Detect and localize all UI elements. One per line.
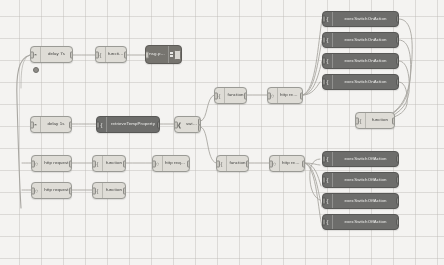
node-output-port[interactable] xyxy=(396,37,400,44)
node-input-port[interactable] xyxy=(96,121,100,128)
node-input-port[interactable] xyxy=(31,160,35,167)
node-label: execSwitchOffAction xyxy=(333,199,398,203)
node-label: http request xyxy=(280,161,304,165)
node-output-port[interactable] xyxy=(396,177,400,184)
node-label: execSwitchOffAction xyxy=(333,178,398,182)
node-function-5[interactable]: { function xyxy=(92,182,126,199)
node-label: execSwitchOffAction xyxy=(333,157,398,161)
node-output-port[interactable] xyxy=(396,219,400,226)
node-label: delay 1s xyxy=(41,122,71,126)
node-input-port[interactable] xyxy=(152,160,156,167)
node-input-port[interactable] xyxy=(95,51,99,58)
node-input-port[interactable] xyxy=(355,117,359,124)
node-label: function xyxy=(366,118,394,122)
node-http-request-2[interactable]: ○ http request xyxy=(31,155,72,172)
node-output-port[interactable] xyxy=(396,16,400,23)
node-input-port[interactable] xyxy=(92,187,96,194)
node-input-port[interactable] xyxy=(92,160,96,167)
flow-canvas[interactable]: ◓ delay 7s { function msg.payload ◓ dela… xyxy=(0,0,444,265)
node-exec-switch-on-action-3[interactable]: { execSwitchOnAction xyxy=(322,53,399,69)
node-input-port[interactable] xyxy=(31,187,35,194)
node-exec-switch-on-action-2[interactable]: { execSwitchOnAction xyxy=(322,32,399,48)
node-output-port[interactable] xyxy=(244,92,248,99)
node-input-port[interactable] xyxy=(174,121,178,128)
node-http-request-3[interactable]: ○ http request xyxy=(152,155,190,172)
node-http-request-4[interactable]: ○ http request xyxy=(31,182,72,199)
node-switch[interactable]: ❰ switch xyxy=(174,116,201,133)
node-function-2[interactable]: { function xyxy=(214,87,247,104)
node-exec-switch-off-action-4[interactable]: { execSwitchOffAction xyxy=(322,214,399,230)
node-label: http request xyxy=(278,93,302,97)
node-output-port[interactable] xyxy=(123,160,127,167)
node-label: execSwitchOnAction xyxy=(333,38,398,42)
node-output-port[interactable] xyxy=(69,121,73,128)
node-input-port[interactable] xyxy=(322,37,326,44)
node-exec-switch-off-action-1[interactable]: { execSwitchOffAction xyxy=(322,151,399,167)
node-input-port[interactable] xyxy=(30,121,34,128)
node-input-port[interactable] xyxy=(145,51,149,58)
node-label: msg.payload xyxy=(146,52,168,56)
node-label: http request xyxy=(42,161,71,165)
node-output-port[interactable] xyxy=(300,92,304,99)
node-input-port[interactable] xyxy=(267,92,271,99)
node-output-port[interactable] xyxy=(70,51,74,58)
node-output-port[interactable] xyxy=(69,187,73,194)
node-debug-msg-payload[interactable]: msg.payload xyxy=(145,45,182,64)
node-output-port[interactable] xyxy=(396,156,400,163)
node-status-dot xyxy=(33,67,39,73)
node-label: execSwitchOffAction xyxy=(333,220,398,224)
node-output-port[interactable] xyxy=(124,51,128,58)
node-exec-switch-on-action-1[interactable]: { execSwitchOnAction xyxy=(322,11,399,27)
node-exec-switch-off-action-2[interactable]: { execSwitchOffAction xyxy=(322,172,399,188)
node-output-port[interactable] xyxy=(187,160,191,167)
node-label: delay 7s xyxy=(41,52,72,56)
node-input-port[interactable] xyxy=(322,177,326,184)
node-input-port[interactable] xyxy=(322,198,326,205)
node-function-3[interactable]: { function xyxy=(216,155,249,172)
debug-icon xyxy=(168,46,174,63)
node-label: execSwitchOnAction xyxy=(333,17,398,21)
node-label: http request xyxy=(42,188,71,192)
node-input-port[interactable] xyxy=(214,92,218,99)
node-exec-switch-on-action-4[interactable]: { execSwitchOnAction xyxy=(322,74,399,90)
node-output-port[interactable] xyxy=(157,121,161,128)
node-http-request-1[interactable]: ○ http request xyxy=(267,87,303,104)
node-input-port[interactable] xyxy=(269,160,273,167)
node-exec-switch-off-action-3[interactable]: { execSwitchOffAction xyxy=(322,193,399,209)
node-input-port[interactable] xyxy=(216,160,220,167)
node-label: retrieveTempProperty xyxy=(107,122,159,126)
node-http-request-5[interactable]: ○ http request xyxy=(269,155,305,172)
node-label: execSwitchOnAction xyxy=(333,59,398,63)
node-input-port[interactable] xyxy=(322,79,326,86)
node-function-1[interactable]: { function xyxy=(95,46,127,63)
node-output-port[interactable] xyxy=(396,79,400,86)
node-delay-1s[interactable]: ◓ delay 1s xyxy=(30,116,72,133)
node-delay-7s[interactable]: ◓ delay 7s xyxy=(30,46,73,63)
debug-toggle-button[interactable] xyxy=(174,50,181,60)
node-output-port[interactable] xyxy=(123,187,127,194)
node-label: execSwitchOnAction xyxy=(333,80,398,84)
node-output-port[interactable] xyxy=(246,160,250,167)
node-retrieve-temp-property[interactable]: { retrieveTempProperty xyxy=(96,116,160,133)
node-output-port[interactable] xyxy=(396,198,400,205)
node-output-port[interactable] xyxy=(302,160,306,167)
node-function-out[interactable]: { function xyxy=(355,112,395,129)
node-input-port[interactable] xyxy=(30,51,34,58)
node-output-port[interactable] xyxy=(392,117,396,124)
node-input-port[interactable] xyxy=(322,156,326,163)
node-output-port[interactable] xyxy=(198,124,202,131)
node-input-port[interactable] xyxy=(322,16,326,23)
node-output-port[interactable] xyxy=(69,160,73,167)
node-function-4[interactable]: { function xyxy=(92,155,126,172)
node-input-port[interactable] xyxy=(322,219,326,226)
node-output-port[interactable] xyxy=(396,58,400,65)
node-input-port[interactable] xyxy=(322,58,326,65)
node-label: http request xyxy=(163,161,189,165)
